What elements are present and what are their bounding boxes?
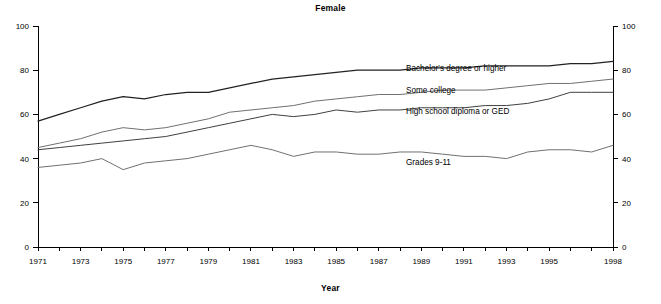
y-tick-label-left: 80 — [20, 66, 29, 75]
x-tick-label: 1975 — [114, 257, 132, 266]
female-education-line-chart: Female 020406080100020406080100197119731… — [0, 0, 661, 304]
x-tick-label: 1991 — [455, 257, 473, 266]
x-tick-label: 1989 — [412, 257, 430, 266]
y-tick-label-right: 100 — [622, 22, 636, 31]
y-tick-label-left: 0 — [25, 243, 30, 252]
x-tick-label: 1977 — [157, 257, 175, 266]
x-axis-label: Year — [0, 283, 661, 293]
series-line-2 — [38, 92, 613, 149]
x-tick-label: 1987 — [370, 257, 388, 266]
x-tick-label: 1985 — [327, 257, 345, 266]
series-label-0: Bachelor's degree or higher — [406, 64, 507, 73]
y-tick-label-left: 60 — [20, 110, 29, 119]
y-tick-label-left: 40 — [20, 155, 29, 164]
x-tick-label: 1973 — [72, 257, 90, 266]
y-tick-label-right: 20 — [622, 199, 631, 208]
series-label-3: Grades 9-11 — [406, 158, 451, 167]
x-tick-label: 1979 — [199, 257, 217, 266]
series-label-2: High school diploma or GED — [406, 107, 509, 116]
y-tick-label-right: 40 — [622, 155, 631, 164]
y-tick-label-right: 0 — [622, 243, 627, 252]
series-line-1 — [38, 79, 613, 148]
series-label-1: Some college — [406, 86, 456, 95]
y-tick-label-left: 100 — [16, 22, 30, 31]
chart-canvas: 0204060801000204060801001971197319751977… — [0, 0, 661, 304]
y-tick-label-left: 20 — [20, 199, 29, 208]
x-tick-label: 1981 — [242, 257, 260, 266]
y-tick-label-right: 60 — [622, 110, 631, 119]
x-tick-label: 1971 — [29, 257, 47, 266]
x-tick-label: 1993 — [498, 257, 516, 266]
axes-layer: 0204060801000204060801001971197319751977… — [16, 22, 636, 266]
series-layer — [38, 61, 613, 169]
y-tick-label-right: 80 — [622, 66, 631, 75]
series-line-3 — [38, 145, 613, 169]
x-tick-label: 1998 — [604, 257, 622, 266]
x-tick-label: 1995 — [540, 257, 558, 266]
x-tick-label: 1983 — [285, 257, 303, 266]
